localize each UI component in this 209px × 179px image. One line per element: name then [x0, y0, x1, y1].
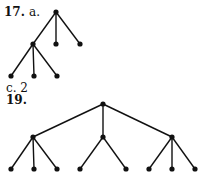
tree-node	[30, 41, 35, 46]
tree-edge	[33, 44, 57, 76]
tree-edge	[172, 137, 195, 169]
tree-edge	[33, 137, 34, 169]
tree-diagrams	[0, 0, 209, 179]
tree-node	[77, 41, 82, 46]
tree-17	[8, 9, 82, 78]
tree-node	[146, 166, 151, 171]
tree-edge	[33, 44, 34, 76]
tree-edge	[11, 44, 33, 76]
tree-edge	[80, 137, 103, 169]
tree-node	[31, 73, 36, 78]
tree-node	[8, 166, 13, 171]
tree-node	[77, 166, 82, 171]
tree-node	[100, 134, 105, 139]
tree-node	[53, 41, 58, 46]
tree-edge	[103, 104, 172, 137]
tree-node	[31, 166, 36, 171]
tree-node	[169, 166, 174, 171]
tree-edge	[149, 137, 172, 169]
tree-edge	[103, 137, 126, 169]
tree-edge	[56, 12, 80, 44]
tree-node	[54, 73, 59, 78]
tree-node	[30, 134, 35, 139]
tree-node	[192, 166, 197, 171]
tree-node	[169, 134, 174, 139]
tree-node	[53, 9, 58, 14]
tree-node	[8, 73, 13, 78]
tree-19	[8, 101, 197, 171]
tree-edge	[11, 137, 33, 169]
tree-edge	[33, 12, 56, 44]
tree-node	[123, 166, 128, 171]
tree-edge	[33, 137, 57, 169]
tree-node	[100, 101, 105, 106]
tree-node	[54, 166, 59, 171]
tree-edge	[33, 104, 103, 137]
